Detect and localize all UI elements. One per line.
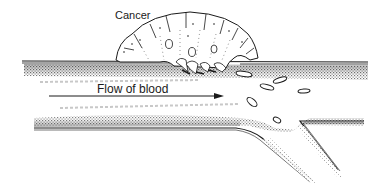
cancer-label: Cancer bbox=[115, 9, 150, 21]
diagram-canvas bbox=[0, 0, 386, 189]
metastasis-diagram: Cancer Flow of blood bbox=[0, 0, 386, 189]
flow-of-blood-label: Flow of blood bbox=[97, 82, 168, 96]
